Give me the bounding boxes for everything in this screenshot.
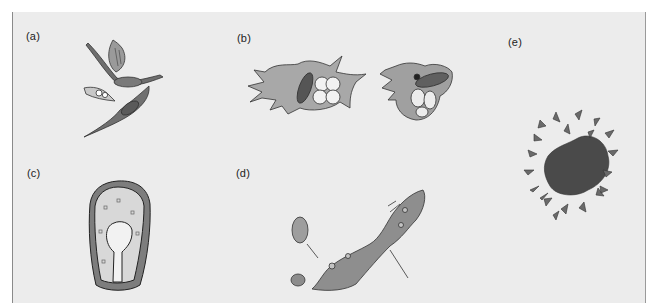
panel-e-illustration [0,0,658,303]
